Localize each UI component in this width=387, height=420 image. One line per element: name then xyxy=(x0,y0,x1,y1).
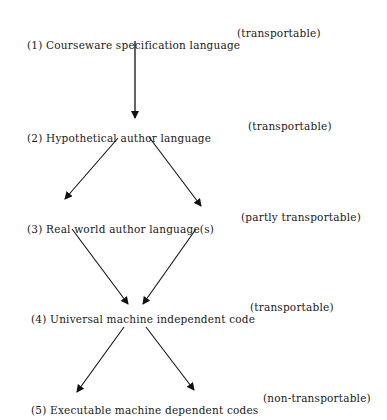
level-3-text: Real world author language(s) xyxy=(46,223,214,235)
level-2-label: (2) Hypothetical author language xyxy=(20,120,211,144)
level-1-text: Courseware specification language xyxy=(46,39,240,51)
level-4-label: (4) Universal machine independent code xyxy=(24,301,255,325)
level-1-label: (1) Courseware specification language xyxy=(20,27,240,51)
level-3-number: (3) xyxy=(27,223,42,235)
level-2-text: Hypothetical author language xyxy=(46,132,211,144)
level-5-number: (5) xyxy=(31,404,46,416)
level-1-note: (transportable) xyxy=(237,27,321,39)
arrow-2-to-3-right xyxy=(149,137,201,206)
level-1-number: (1) xyxy=(27,39,42,51)
level-5-text: Executable machine dependent codes xyxy=(50,404,258,416)
arrow-3-to-4-left xyxy=(72,229,128,304)
arrow-4-to-5-right xyxy=(146,327,194,390)
level-4-note: (transportable) xyxy=(250,301,334,313)
level-3-label: (3) Real world author language(s) xyxy=(20,211,214,235)
level-5-note: (non-transportable) xyxy=(263,392,371,404)
arrow-4-to-5-left xyxy=(77,327,124,392)
arrow-3-to-4-right xyxy=(143,229,196,304)
arrow-2-to-3-left xyxy=(65,138,118,199)
level-5-label: (5) Executable machine dependent codes xyxy=(24,392,258,416)
arrows-layer xyxy=(0,0,387,420)
level-4-text: Universal machine independent code xyxy=(50,313,255,325)
level-2-number: (2) xyxy=(27,132,42,144)
level-2-note: (transportable) xyxy=(248,120,332,132)
level-4-number: (4) xyxy=(31,313,46,325)
level-3-note: (partly transportable) xyxy=(241,211,361,223)
